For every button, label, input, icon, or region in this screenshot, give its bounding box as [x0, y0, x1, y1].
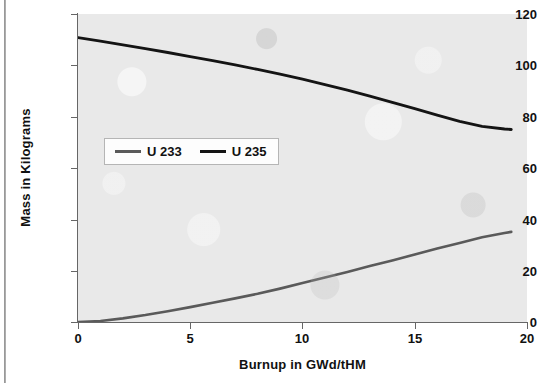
legend-item-u-235: U 235 — [200, 145, 267, 158]
y-tick-label-100: 100 — [515, 59, 537, 72]
y-tick-80 — [71, 117, 77, 118]
y-tick-40 — [71, 220, 77, 221]
plot-area: U 233 U 235 — [78, 14, 527, 322]
chart-legend: U 233 U 235 — [104, 138, 279, 165]
x-tick-15 — [415, 323, 416, 329]
y-axis-line — [77, 13, 78, 323]
series-line-u-235 — [78, 38, 511, 130]
legend-swatch-u-235 — [200, 150, 226, 153]
series-line-u-233 — [78, 232, 511, 322]
y-tick-120 — [71, 14, 77, 15]
x-axis-title: Burnup in GWd/tHM — [78, 357, 527, 372]
y-tick-label-40: 40 — [523, 214, 537, 227]
y-tick-label-60: 60 — [523, 162, 537, 175]
y-tick-100 — [71, 65, 77, 66]
y-tick-20 — [71, 271, 77, 272]
x-tick-label-15: 15 — [408, 332, 422, 345]
x-tick-label-20: 20 — [520, 332, 534, 345]
y-tick-0 — [71, 322, 77, 323]
page-edge-border — [4, 0, 6, 383]
y-tick-label-80: 80 — [523, 111, 537, 124]
y-tick-label-20: 20 — [523, 265, 537, 278]
y-tick-label-120: 120 — [515, 8, 537, 21]
legend-label-u-235: U 235 — [232, 145, 267, 158]
x-tick-label-0: 0 — [74, 332, 81, 345]
legend-label-u-233: U 233 — [147, 145, 182, 158]
x-tick-0 — [78, 323, 79, 329]
legend-swatch-u-233 — [115, 150, 141, 153]
series-lines — [78, 14, 527, 322]
x-tick-10 — [302, 323, 303, 329]
y-tick-60 — [71, 168, 77, 169]
x-tick-label-10: 10 — [295, 332, 309, 345]
legend-item-u-233: U 233 — [115, 145, 182, 158]
x-tick-5 — [190, 323, 191, 329]
x-tick-20 — [527, 323, 528, 329]
y-axis-title: Mass in Kilograms — [18, 83, 33, 253]
chart-figure: U 233 U 235 120 100 80 60 40 20 0 0 5 10… — [0, 0, 545, 383]
x-tick-label-5: 5 — [186, 332, 193, 345]
y-tick-label-0: 0 — [530, 316, 537, 329]
